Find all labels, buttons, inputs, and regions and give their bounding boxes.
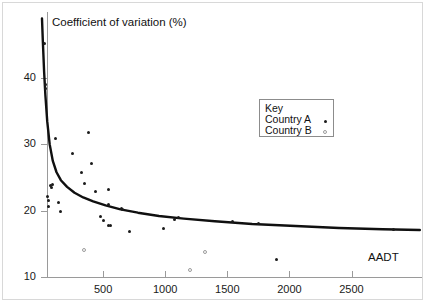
legend-box: Key Country A Country B [259, 99, 334, 137]
y-axis-title: Coefficient of variation (%) [52, 16, 187, 28]
fitted-curve [0, 0, 426, 303]
data-point-country-b [203, 250, 207, 254]
x-axis-tick-label: 1500 [207, 283, 247, 295]
data-point-country-a [231, 220, 234, 223]
data-point-country-a [59, 210, 62, 213]
data-point-country-a [107, 188, 110, 191]
y-axis-tick [41, 277, 48, 278]
data-point-country-a [87, 131, 90, 134]
data-point-country-a [46, 195, 49, 198]
plot-area: Coefficient of variation (%) AADT 102030… [0, 0, 426, 303]
data-point-country-a [177, 216, 180, 219]
data-point-country-a [57, 201, 60, 204]
data-point-country-a [392, 228, 395, 231]
x-axis-tick [352, 271, 353, 278]
x-axis-tick-label: 2500 [332, 283, 372, 295]
data-point-country-a [173, 218, 176, 221]
data-point-country-a [128, 230, 131, 233]
y-axis-tick [41, 144, 48, 145]
legend-marker-filled-dot-icon [324, 120, 327, 123]
x-axis-tick [227, 271, 228, 278]
data-point-country-a [275, 258, 278, 261]
data-point-country-b [82, 248, 86, 252]
data-point-country-a [109, 224, 112, 227]
chart-figure: Coefficient of variation (%) AADT 102030… [0, 0, 426, 303]
y-axis-tick-label: 40 [12, 71, 36, 83]
data-point-country-a [257, 222, 260, 225]
x-axis-tick [165, 271, 166, 278]
x-axis-tick [103, 271, 104, 278]
y-axis-tick-label: 30 [12, 137, 36, 149]
data-point-country-a [102, 219, 105, 222]
data-point-country-a [90, 162, 93, 165]
data-point-country-a [50, 186, 53, 189]
legend-marker-open-dot-icon [323, 130, 327, 134]
data-point-country-a [99, 215, 102, 218]
legend-entry-country-b: Country B [265, 124, 312, 136]
x-axis-title: AADT [368, 251, 399, 263]
y-axis-tick-label: 10 [12, 270, 36, 282]
data-point-country-a [94, 190, 97, 193]
x-axis-tick-label: 1000 [145, 283, 185, 295]
data-point-country-a [47, 205, 50, 208]
data-point-country-a [83, 182, 86, 185]
y-axis-tick [41, 78, 48, 79]
data-point-country-a [54, 137, 57, 140]
data-point-country-a [107, 203, 110, 206]
data-point-country-a [44, 87, 47, 90]
data-point-country-a [162, 227, 165, 230]
data-point-country-a [47, 199, 50, 202]
data-point-country-a [121, 208, 124, 211]
data-point-country-a [71, 152, 74, 155]
x-axis-tick-label: 500 [83, 283, 123, 295]
x-axis-tick [289, 271, 290, 278]
data-point-country-a [43, 42, 46, 45]
x-axis-line [41, 277, 422, 278]
y-axis-tick-label: 20 [12, 204, 36, 216]
data-point-country-a [80, 171, 83, 174]
data-point-country-b [188, 268, 192, 272]
y-axis-tick [41, 211, 48, 212]
x-axis-tick-label: 2000 [269, 283, 309, 295]
